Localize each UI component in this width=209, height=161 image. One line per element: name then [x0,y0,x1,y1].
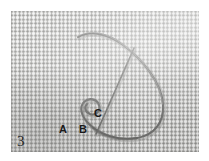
thread-free-end-path [96,48,134,134]
marker-label-c: C [94,108,102,119]
photograph-panel [11,11,199,152]
marker-label-a: A [59,124,67,135]
thread-free-end-shadow [97,49,135,135]
thread-illustration [11,11,199,152]
thread-loop-shadow [79,35,164,140]
figure-root: A B C 3 [0,0,209,161]
figure-number: 3 [17,134,25,149]
marker-label-b: B [79,124,87,135]
